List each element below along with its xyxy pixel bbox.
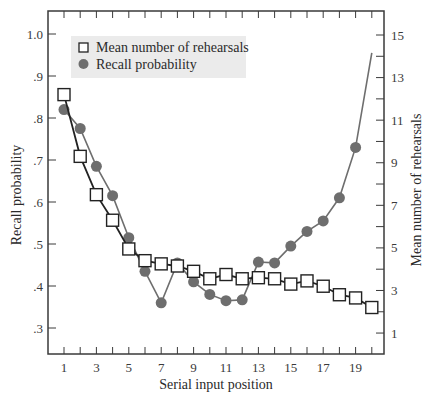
y-tick-label: .9: [33, 69, 43, 84]
filled-circle-marker: [140, 266, 151, 277]
open-square-marker: [123, 243, 135, 255]
filled-circle-marker: [156, 297, 167, 308]
open-square-marker: [155, 258, 167, 270]
x-tick-label: 19: [349, 360, 362, 375]
y-tick-label: .8: [33, 111, 43, 126]
x-axis-tick-labels: 135791113151719: [61, 360, 362, 375]
right-y-axis-tick-labels: 15131197531: [391, 28, 404, 341]
x-axis-title: Serial input position: [159, 377, 273, 392]
open-square-marker: [252, 272, 264, 284]
recall-probability-series: [59, 53, 372, 308]
y-right-tick-label: 1: [391, 326, 398, 341]
legend: Mean number of rehearsals Recall probabi…: [71, 36, 249, 78]
recall-line: [64, 53, 372, 303]
filled-circle-marker: [334, 192, 345, 203]
x-tick-label: 1: [61, 360, 68, 375]
filled-circle-marker: [302, 226, 313, 237]
filled-circle-marker: [269, 257, 280, 268]
left-y-axis-ticks: [48, 34, 56, 328]
filled-circle-icon: [79, 59, 89, 69]
filled-circle-marker: [350, 142, 361, 153]
open-square-marker: [317, 280, 329, 292]
serial-position-chart: 135791113151719 1.0.9.8.7.6.5.4.3 151311…: [0, 0, 437, 403]
filled-circle-marker: [75, 123, 86, 134]
open-square-marker: [301, 275, 313, 287]
filled-circle-marker: [107, 190, 118, 201]
y-tick-label: 1.0: [27, 27, 43, 42]
y-tick-label: .6: [33, 195, 43, 210]
y-right-tick-label: 3: [391, 283, 398, 298]
open-square-marker: [74, 150, 86, 162]
open-square-marker: [220, 269, 232, 281]
filled-circle-marker: [91, 161, 102, 172]
legend-label-recall: Recall probability: [96, 57, 197, 72]
filled-circle-marker: [204, 289, 215, 300]
y-tick-label: .4: [33, 279, 43, 294]
filled-circle-marker: [318, 215, 329, 226]
y-tick-label: .5: [33, 237, 43, 252]
right-y-axis-ticks: [376, 35, 384, 333]
open-square-marker: [107, 214, 119, 226]
y-right-tick-label: 11: [391, 113, 404, 128]
open-square-marker: [285, 278, 297, 290]
mean-rehearsals-series: [58, 89, 378, 314]
left-y-axis-tick-labels: 1.0.9.8.7.6.5.4.3: [27, 27, 44, 336]
filled-circle-marker: [253, 257, 264, 268]
open-square-marker: [333, 289, 345, 301]
open-square-marker: [58, 89, 70, 101]
y-tick-label: .7: [33, 153, 43, 168]
y-right-tick-label: 5: [391, 240, 398, 255]
x-tick-label: 13: [252, 360, 265, 375]
y-right-tick-label: 7: [391, 198, 398, 213]
open-square-marker: [350, 292, 362, 304]
y-right-tick-label: 15: [391, 28, 404, 43]
rehearsals-line: [64, 95, 372, 308]
open-square-marker: [236, 273, 248, 285]
open-square-marker: [269, 273, 281, 285]
legend-label-rehearsals: Mean number of rehearsals: [96, 40, 249, 55]
filled-circle-marker: [221, 295, 232, 306]
open-square-marker: [204, 273, 216, 285]
y-right-tick-label: 9: [391, 155, 398, 170]
filled-circle-marker: [237, 294, 248, 305]
open-square-marker: [188, 265, 200, 277]
x-tick-label: 15: [284, 360, 297, 375]
x-tick-label: 7: [158, 360, 165, 375]
x-tick-label: 3: [93, 360, 100, 375]
open-square-marker: [139, 255, 151, 267]
x-tick-label: 11: [220, 360, 233, 375]
open-square-marker: [366, 302, 378, 314]
left-y-axis-title: Recall probability: [9, 145, 24, 246]
filled-circle-marker: [285, 241, 296, 252]
x-tick-label: 5: [126, 360, 133, 375]
open-square-marker: [171, 260, 183, 272]
y-tick-label: .3: [33, 321, 43, 336]
open-square-marker: [90, 189, 102, 201]
x-tick-label: 17: [317, 360, 331, 375]
x-tick-label: 9: [190, 360, 197, 375]
open-square-icon: [79, 43, 88, 52]
y-right-tick-label: 13: [391, 70, 404, 85]
right-y-axis-title: Mean number of rehearsals: [409, 114, 424, 267]
